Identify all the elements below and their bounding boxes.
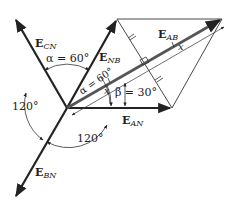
label-x-inner: x bbox=[104, 85, 110, 96]
label-e-bn: EBN bbox=[35, 166, 57, 180]
label-x-right: x bbox=[178, 41, 184, 52]
label-beta: β = 30° bbox=[115, 86, 157, 99]
label-e-nb: ENB bbox=[99, 51, 120, 65]
label-120-left: 120° bbox=[12, 100, 39, 113]
label-e-ab: EAB bbox=[158, 28, 178, 42]
phasor-diagram: ECN ENB EAB EAN EBN α = 60° α = 60° x β … bbox=[0, 0, 237, 211]
label-alpha-top: α = 60° bbox=[46, 52, 89, 65]
vector-e-bn bbox=[16, 108, 67, 196]
label-e-an: EAN bbox=[122, 114, 144, 128]
label-120-bottom: 120° bbox=[77, 132, 104, 145]
dimension-x bbox=[72, 27, 224, 115]
label-e-cn: ECN bbox=[35, 37, 58, 51]
